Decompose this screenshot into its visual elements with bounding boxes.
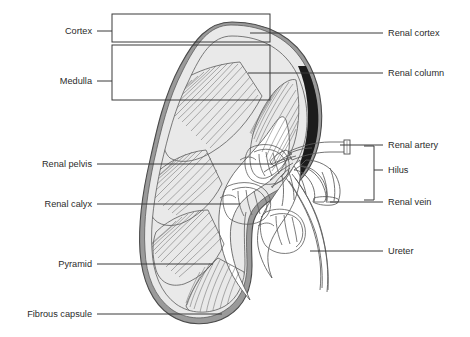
renal-pyramid bbox=[257, 259, 302, 318]
label-ureter-text: Ureter bbox=[388, 246, 414, 256]
label-medulla-text: Medulla bbox=[60, 76, 93, 86]
label-renal-cortex-text: Renal cortex bbox=[388, 28, 440, 38]
label-renal-vein[interactable]: Renal vein bbox=[330, 197, 431, 207]
kidney-diagram-figure: Cortex Medulla Renal pelvis Renal calyx … bbox=[0, 0, 470, 337]
label-hilus-text: Hilus bbox=[388, 165, 409, 175]
label-renal-pelvis-text: Renal pelvis bbox=[42, 159, 92, 169]
label-hilus[interactable]: Hilus bbox=[364, 146, 409, 200]
label-renal-artery[interactable]: Renal artery bbox=[340, 140, 438, 150]
label-renal-calyx-text: Renal calyx bbox=[45, 199, 93, 209]
diagram-canvas: Cortex Medulla Renal pelvis Renal calyx … bbox=[0, 0, 470, 337]
label-cortex-text: Cortex bbox=[65, 26, 92, 36]
label-fibrous-capsule-text: Fibrous capsule bbox=[27, 309, 92, 319]
label-pyramid-text: Pyramid bbox=[58, 259, 92, 269]
hilus-bracket bbox=[364, 146, 374, 200]
label-renal-column-text: Renal column bbox=[388, 68, 444, 78]
label-cortex[interactable]: Cortex bbox=[65, 26, 112, 36]
label-renal-vein-text: Renal vein bbox=[388, 197, 431, 207]
kidney-body bbox=[140, 22, 350, 324]
label-medulla[interactable]: Medulla bbox=[60, 76, 112, 86]
label-renal-artery-text: Renal artery bbox=[388, 140, 438, 150]
